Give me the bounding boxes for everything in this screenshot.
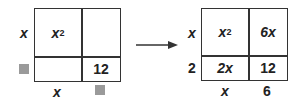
right-cell-top-right: 6x [249, 9, 287, 55]
left-col-placeholder-square [95, 85, 105, 95]
right-cell-bottom-right: 12 [249, 56, 287, 80]
right-col-label-x: x [218, 83, 232, 99]
right-row-label-x: x [185, 25, 199, 41]
right-row-label-2: 2 [185, 60, 199, 76]
left-cell-bottom-left [35, 57, 81, 81]
right-cell-top-left: x2 [202, 9, 248, 55]
left-cell-top-left: x2 [35, 9, 81, 56]
right-col-label-6: 6 [260, 83, 274, 99]
right-cell-bottom-left: 2x [202, 56, 248, 80]
arrow-right-icon [134, 39, 180, 51]
left-row-label-x: x [17, 25, 31, 41]
left-col-label-x: x [50, 84, 64, 100]
left-cell-top-right [82, 9, 120, 56]
left-cell-bottom-right: 12 [82, 57, 120, 81]
left-row-placeholder-square [19, 64, 29, 74]
